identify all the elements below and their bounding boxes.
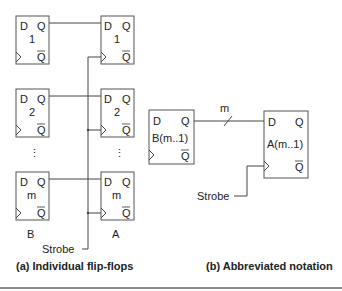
register-b-d-label: D — [153, 115, 161, 127]
flipflop-a2-q-label: Q — [122, 93, 131, 105]
junction-dot-icon — [87, 212, 89, 214]
bus-width-label: m — [220, 102, 229, 114]
flipflop-a2-qbar-label: Q — [122, 124, 131, 136]
register-b-label: B — [27, 228, 34, 240]
part-a-individual-flipflops: D Q 1 Q D Q 2 Q ⋮ D Q m Q B — [16, 16, 134, 272]
register-a-block: D Q A(m..1) Q — [264, 111, 308, 178]
flipflop-a1-q-label: Q — [122, 20, 131, 32]
register-a-d-label: D — [268, 116, 276, 128]
flipflop-bm: D Q m Q — [16, 172, 49, 220]
flipflop-b1-qbar-label: Q — [37, 51, 46, 63]
flipflop-a1-d-label: D — [104, 20, 112, 32]
strobe-wire — [82, 57, 101, 249]
flipflop-a1-index: 1 — [114, 33, 120, 45]
caption-a: (a) Individual flip-flops — [16, 260, 133, 272]
ellipsis-a: ⋮ — [114, 147, 125, 159]
flipflop-a1-qbar-label: Q — [122, 51, 131, 63]
flipflop-am-index: m — [112, 189, 121, 201]
register-b-block: D Q B(m..1) Q — [149, 110, 194, 164]
register-a-name: A(m..1) — [267, 138, 303, 150]
register-b-qbar-label: Q — [181, 150, 190, 162]
strobe-label-b: Strobe — [197, 190, 229, 202]
flipflop-b2-qbar-label: Q — [37, 124, 46, 136]
flipflop-am-qbar-label: Q — [122, 207, 131, 219]
flipflop-b1: D Q 1 Q — [16, 16, 49, 64]
register-a-qbar-label: Q — [295, 161, 304, 173]
part-b-abbreviated-notation: D Q B(m..1) Q D Q A(m..1) Q m Strobe (b)… — [149, 102, 333, 272]
flipflop-a2-d-label: D — [104, 93, 112, 105]
flipflop-b2-d-label: D — [20, 93, 28, 105]
strobe-wire-b — [234, 166, 264, 196]
flipflop-b2-index: 2 — [29, 106, 35, 118]
ellipsis-b: ⋮ — [29, 147, 40, 159]
flipflop-b1-index: 1 — [29, 33, 35, 45]
flipflop-bm-index: m — [27, 189, 36, 201]
flipflop-am-d-label: D — [104, 176, 112, 188]
flipflop-a2: D Q 2 Q — [101, 89, 134, 137]
flipflop-a1: D Q 1 Q — [101, 16, 134, 64]
register-b-name: B(m..1) — [152, 132, 188, 144]
flipflop-am: D Q m Q — [101, 172, 134, 220]
flipflop-bm-q-label: Q — [37, 176, 46, 188]
register-a-label: A — [112, 228, 120, 240]
flipflop-b1-d-label: D — [20, 20, 28, 32]
flipflop-b2: D Q 2 Q — [16, 89, 49, 137]
caption-b: (b) Abbreviated notation — [206, 260, 333, 272]
flipflop-bm-d-label: D — [20, 176, 28, 188]
strobe-label-a: Strobe — [42, 243, 74, 255]
flipflop-bm-qbar-label: Q — [37, 207, 46, 219]
flipflop-am-q-label: Q — [122, 176, 131, 188]
flipflop-b1-q-label: Q — [37, 20, 46, 32]
register-b-q-label: Q — [181, 115, 190, 127]
register-a-q-label: Q — [295, 116, 304, 128]
flipflop-b2-q-label: Q — [37, 93, 46, 105]
junction-dot-icon — [87, 129, 89, 131]
flipflop-a2-index: 2 — [114, 106, 120, 118]
